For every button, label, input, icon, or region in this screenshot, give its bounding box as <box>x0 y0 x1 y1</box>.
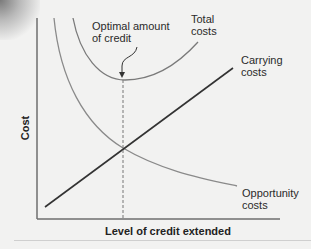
total-label-line1: Total <box>191 13 217 25</box>
carrying-costs-line <box>45 68 233 207</box>
opportunity-label-line2: costs <box>242 199 299 211</box>
carrying-costs-label: Carrying costs <box>241 54 283 78</box>
divider <box>14 240 311 241</box>
total-label-line2: costs <box>191 25 217 37</box>
carrying-label-line2: costs <box>241 66 283 78</box>
x-axis-label: Level of credit extended <box>105 225 231 237</box>
optimal-arrow <box>122 47 137 73</box>
y-axis-label: Cost <box>19 116 31 140</box>
optimal-label-line2: of credit <box>92 32 170 44</box>
arrow-head-icon <box>119 72 125 78</box>
optimal-label: Optimal amount of credit <box>92 20 170 44</box>
opportunity-costs-label: Opportunity costs <box>242 187 299 211</box>
total-costs-label: Total costs <box>191 13 217 37</box>
opportunity-label-line1: Opportunity <box>242 187 299 199</box>
optimal-label-line1: Optimal amount <box>92 20 170 32</box>
carrying-label-line1: Carrying <box>241 54 283 66</box>
